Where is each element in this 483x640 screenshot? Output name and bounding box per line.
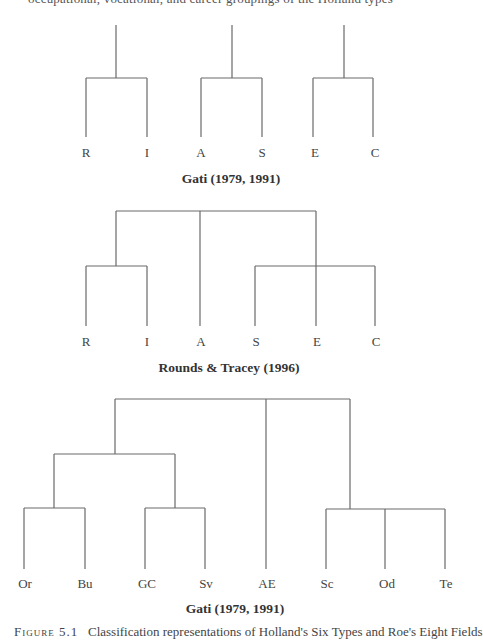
leaf-label-od: Od — [379, 576, 395, 591]
figure-label: Figure 5.1 — [14, 624, 78, 639]
leaf-label-s: S — [252, 334, 259, 349]
dendrogram-gati-riasec: R I A S E C Gati (1979, 1991) — [82, 25, 380, 186]
leaf-label-bu: Bu — [77, 576, 93, 591]
leaf-label-c: C — [372, 334, 381, 349]
leaf-label-sc: Sc — [321, 576, 334, 591]
leaf-label-a: A — [196, 334, 206, 349]
dendrogram-caption: Gati (1979, 1991) — [186, 601, 285, 616]
leaf-label-r: R — [82, 145, 91, 160]
leaf-label-s: S — [258, 145, 265, 160]
figure-caption-text: Classification representations of Hollan… — [88, 624, 483, 639]
leaf-label-e: E — [313, 334, 321, 349]
leaf-label-gc: GC — [138, 576, 156, 591]
leaf-label-i: I — [145, 145, 149, 160]
dendrogram-gati-roe: Or Bu GC Sv AE Sc Od Te Gati (1979, 1991… — [18, 399, 452, 616]
leaf-label-a: A — [196, 145, 206, 160]
leaf-label-ae: AE — [258, 576, 275, 591]
leaf-label-te: Te — [440, 576, 453, 591]
leaf-label-or: Or — [18, 576, 32, 591]
leaf-label-e: E — [311, 145, 319, 160]
leaf-label-sv: Sv — [199, 576, 213, 591]
leaf-label-c: C — [371, 145, 380, 160]
leaf-label-i: I — [145, 334, 149, 349]
figure-caption: Figure 5.1 Classification representation… — [14, 624, 483, 640]
dendrogram-caption: Gati (1979, 1991) — [182, 171, 281, 186]
dendrogram-caption: Rounds & Tracey (1996) — [159, 360, 300, 375]
dendrogram-rounds-tracey: R I A S E C Rounds & Tracey (1996) — [82, 211, 381, 375]
leaf-label-r: R — [82, 334, 91, 349]
